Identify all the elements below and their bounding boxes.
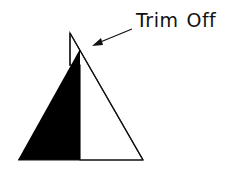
label-word-trim: Trim (136, 9, 178, 31)
arrow-head-icon (92, 38, 103, 46)
trim-off-label: TrimOff (136, 9, 216, 31)
dark-sail-section (18, 49, 80, 160)
sail-diagram: TrimOff (0, 0, 244, 173)
arrow-shaft (98, 29, 132, 43)
label-word-off: Off (186, 9, 216, 31)
